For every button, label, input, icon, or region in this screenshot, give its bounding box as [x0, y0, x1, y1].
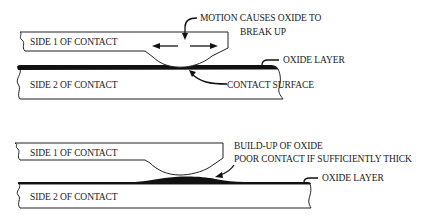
contact-surface-label: CONTACT SURFACE [227, 80, 314, 90]
top-diagram: SIDE 1 OF CONTACT SIDE 2 OF CONTACT MOTI… [17, 13, 345, 99]
motion-label-line1: MOTION CAUSES OXIDE TO [200, 13, 321, 23]
buildup-label-line1: BUILD-UP OF OXIDE [234, 141, 323, 151]
top-side1-label: SIDE 1 OF CONTACT [30, 37, 118, 47]
bottom-oxide-leader [304, 178, 318, 182]
buildup-label-line2: POOR CONTACT IF SUFFICIENTLY THICK [234, 154, 412, 164]
bottom-oxide-label: OXIDE LAYER [322, 173, 384, 183]
motion-label-line2: BREAK UP [240, 27, 286, 37]
bottom-side1-label: SIDE 1 OF CONTACT [30, 148, 118, 158]
bottom-side2-label: SIDE 2 OF CONTACT [30, 192, 118, 202]
top-oxide-leader [262, 60, 279, 65]
top-side2-label: SIDE 2 OF CONTACT [30, 80, 118, 90]
bottom-oxide-layer [18, 177, 311, 184]
top-oxide-label: OXIDE LAYER [283, 55, 345, 65]
bottom-diagram: SIDE 1 OF CONTACT SIDE 2 OF CONTACT BUIL… [15, 141, 412, 208]
contact-oxide-diagram: SIDE 1 OF CONTACT SIDE 2 OF CONTACT MOTI… [0, 0, 435, 219]
